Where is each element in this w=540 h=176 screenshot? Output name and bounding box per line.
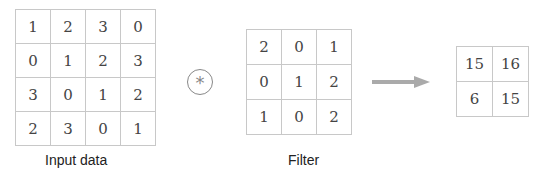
filter-label: Filter xyxy=(288,152,319,168)
input-cell: 3 xyxy=(51,112,86,146)
filter-cell: 0 xyxy=(247,65,282,100)
input-cell: 2 xyxy=(86,44,121,78)
output-cell: 15 xyxy=(457,47,493,82)
input-cell: 3 xyxy=(16,78,51,112)
filter-cell: 1 xyxy=(282,65,317,100)
convolution-operator-icon: * xyxy=(187,69,213,95)
filter-cell: 2 xyxy=(317,100,352,135)
input-cell: 1 xyxy=(16,10,51,44)
output-cell: 16 xyxy=(493,47,529,82)
input-cell: 0 xyxy=(16,44,51,78)
input-cell: 1 xyxy=(121,112,156,146)
input-cell: 3 xyxy=(86,10,121,44)
input-cell: 0 xyxy=(51,78,86,112)
input-data-label: Input data xyxy=(45,152,107,168)
filter-cell: 0 xyxy=(282,30,317,65)
input-cell: 3 xyxy=(121,44,156,78)
input-cell: 2 xyxy=(16,112,51,146)
output-cell: 15 xyxy=(493,82,529,117)
input-cell: 0 xyxy=(86,112,121,146)
arrow-right-icon xyxy=(372,76,432,88)
filter-cell: 1 xyxy=(247,100,282,135)
output-matrix: 1516615 xyxy=(456,46,529,117)
filter-matrix: 201012102 xyxy=(246,29,352,135)
input-cell: 1 xyxy=(86,78,121,112)
input-cell: 2 xyxy=(121,78,156,112)
input-cell: 2 xyxy=(51,10,86,44)
input-data-matrix: 1230012330122301 xyxy=(15,9,156,146)
output-cell: 6 xyxy=(457,82,493,117)
input-cell: 0 xyxy=(121,10,156,44)
filter-cell: 2 xyxy=(317,65,352,100)
filter-cell: 1 xyxy=(317,30,352,65)
input-cell: 1 xyxy=(51,44,86,78)
filter-cell: 0 xyxy=(282,100,317,135)
filter-cell: 2 xyxy=(247,30,282,65)
